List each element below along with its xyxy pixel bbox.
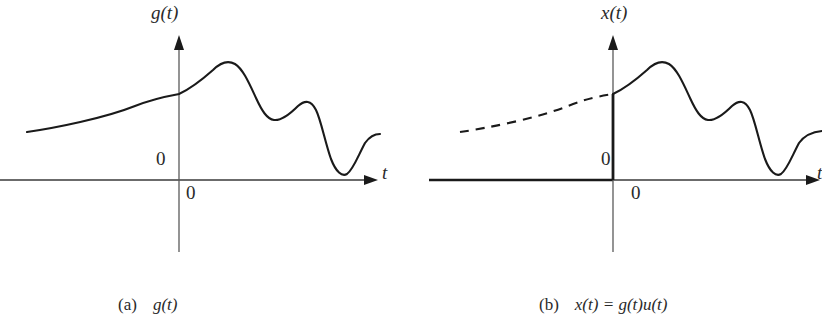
axis-label-g-of-t: g(t) — [151, 2, 178, 24]
origin-label-upper-b: 0 — [601, 148, 611, 170]
curve-g-t-dashed-reference — [460, 94, 613, 132]
caption-a-expression: g(t) — [153, 295, 178, 314]
figure-container: g(t) t 0 0 (a)g(t) — [0, 0, 822, 333]
panel-a-plot — [0, 0, 411, 333]
g-axis-a — [174, 35, 184, 252]
axis-label-t-a: t — [382, 162, 387, 184]
caption-a-tag: (a) — [118, 295, 137, 314]
origin-label-upper-a: 0 — [156, 148, 166, 170]
origin-label-lower-a: 0 — [186, 182, 196, 204]
curve-x-t — [613, 62, 822, 175]
caption-a: (a)g(t) — [118, 295, 177, 315]
caption-b-expression: x(t) = g(t)u(t) — [575, 295, 668, 314]
caption-b: (b)x(t) = g(t)u(t) — [539, 295, 667, 315]
t-axis-b — [429, 175, 820, 185]
axis-label-x-of-t: x(t) — [601, 2, 627, 24]
panel-a-gt: g(t) t 0 0 (a)g(t) — [0, 0, 411, 333]
panel-b-plot — [411, 0, 822, 333]
curve-g-t — [27, 62, 380, 175]
axis-label-t-b: t — [817, 162, 822, 184]
panel-b-xt: x(t) t 0 0 (b)x(t) = g(t)u(t) — [411, 0, 822, 333]
caption-b-tag: (b) — [539, 295, 559, 314]
origin-label-lower-b: 0 — [631, 182, 641, 204]
